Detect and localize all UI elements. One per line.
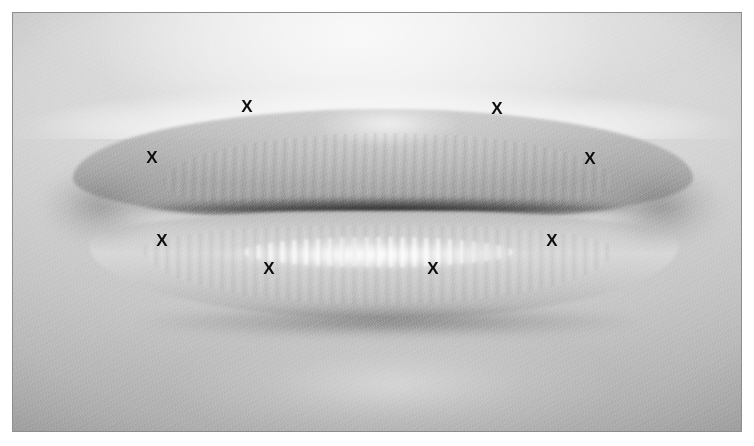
annotation-marker-m8: X xyxy=(546,232,557,249)
figure-root: XXXXXXXX xyxy=(0,0,754,446)
annotation-marker-layer: XXXXXXXX xyxy=(13,13,741,431)
annotation-marker-m7: X xyxy=(427,260,438,277)
lips-photograph: XXXXXXXX xyxy=(12,12,742,432)
annotation-marker-m3: X xyxy=(491,100,502,117)
annotation-marker-m5: X xyxy=(156,232,167,249)
annotation-marker-m6: X xyxy=(263,260,274,277)
annotation-marker-m2: X xyxy=(241,98,252,115)
annotation-marker-m4: X xyxy=(584,150,595,167)
annotation-marker-m1: X xyxy=(146,149,157,166)
